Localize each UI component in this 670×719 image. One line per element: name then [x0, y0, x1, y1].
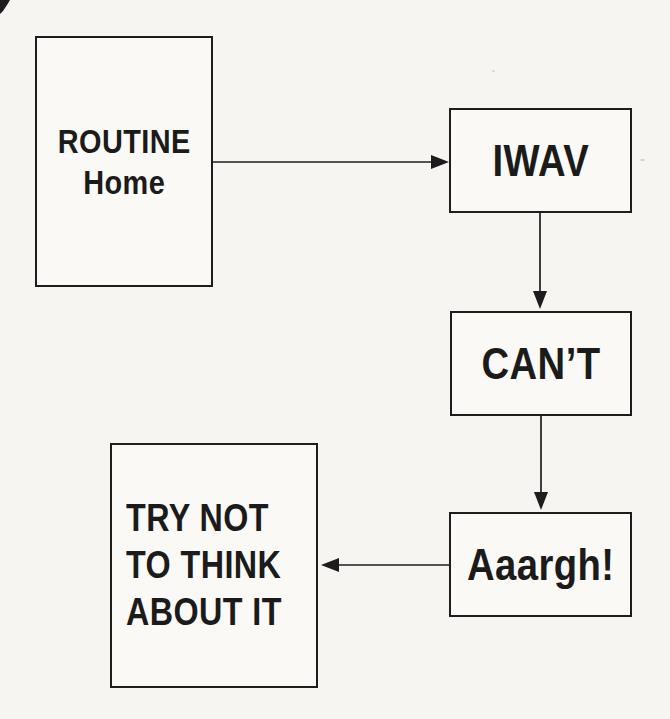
node-iwav: IWAV: [449, 108, 632, 213]
node-aaargh-label: Aaargh!: [467, 539, 615, 591]
node-aaargh: Aaargh!: [449, 512, 632, 617]
node-try-not-to-think-about-it: TRY NOT TO THINK ABOUT IT: [110, 443, 318, 688]
arrow-cant-to-aaargh: [534, 416, 548, 510]
paper-speckle: [492, 70, 495, 72]
node-iwav-label: IWAV: [492, 135, 589, 187]
node-try-not-label-line2: TO THINK: [126, 542, 281, 589]
flowchart: ROUTINE Home IWAV CAN’T Aaargh! TRY NOT …: [0, 0, 670, 719]
arrow-aaargh-to-trynot: [321, 558, 449, 572]
paper-speckle: [640, 159, 645, 161]
node-routine-home-label-line2: Home: [83, 162, 165, 203]
scan-corner-mark: [0, 0, 10, 14]
node-routine-home-label-line1: ROUTINE: [57, 121, 190, 162]
arrow-iwav-to-cant: [533, 213, 547, 309]
node-try-not-label-line3: ABOUT IT: [126, 589, 282, 636]
arrow-routine-to-iwav: [213, 155, 449, 169]
node-cant-label: CAN’T: [481, 338, 600, 390]
node-try-not-label-line1: TRY NOT: [126, 495, 269, 542]
node-routine-home: ROUTINE Home: [35, 36, 213, 287]
node-cant: CAN’T: [450, 311, 632, 416]
